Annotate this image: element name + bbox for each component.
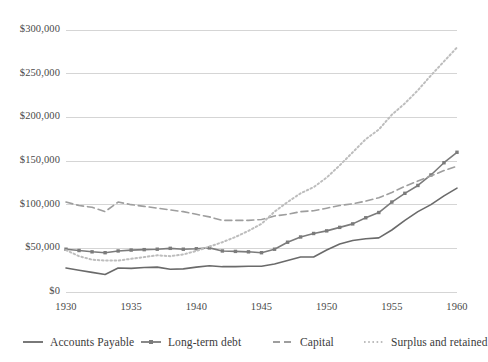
series-marker [364,216,367,219]
series-marker [403,192,406,195]
legend-swatch-icon [272,336,294,348]
series-marker [286,241,289,244]
series-marker [299,235,302,238]
y-axis-tick-label: $150,000 [0,154,60,165]
series-marker [455,151,458,154]
series-line-1 [66,152,457,252]
series-marker [338,226,341,229]
legend-swatch-icon [140,336,162,348]
x-axis-tick-label: 1930 [41,301,91,312]
series-line-2 [66,166,457,220]
legend-item-3[interactable]: Surplus and retained [363,332,488,352]
y-axis-tick-label: $300,000 [0,23,60,34]
series-marker [390,200,393,203]
series-marker [442,161,445,164]
y-axis-tick-label: $0 [0,285,60,296]
series-marker [77,249,80,252]
series-marker [103,251,106,254]
series-marker [234,250,237,253]
series-marker [325,229,328,232]
x-axis-tick-label: 1940 [171,301,221,312]
series-marker [312,232,315,235]
series-line-3 [66,47,457,260]
x-axis-tick-label: 1950 [302,301,352,312]
chart-legend: Accounts PayableLong-term debtCapitalSur… [0,330,481,356]
series-marker [169,247,172,250]
series-marker [221,249,224,252]
series-line-0 [66,188,457,274]
series-marker [90,250,93,253]
series-marker [143,248,146,251]
legend-label: Surplus and retained [391,336,488,348]
y-axis-tick-label: $250,000 [0,67,60,78]
series-marker [247,250,250,253]
legend-item-0[interactable]: Accounts Payable [22,332,134,352]
series-marker [377,211,380,214]
legend-swatch-icon [22,336,44,348]
y-axis-tick-label: $50,000 [0,241,60,252]
series-marker [416,184,419,187]
x-axis-tick-label: 1935 [106,301,156,312]
legend-swatch-icon [363,336,385,348]
series-marker [273,248,276,251]
y-axis-tick-label: $200,000 [0,110,60,121]
legend-item-2[interactable]: Capital [272,332,334,352]
series-marker [116,249,119,252]
legend-label: Capital [300,336,334,348]
series-marker [182,248,185,251]
legend-item-1[interactable]: Long-term debt [140,332,241,352]
series-marker [129,248,132,251]
x-axis-tick-label: 1945 [237,301,287,312]
legend-label: Long-term debt [168,336,241,348]
legend-label: Accounts Payable [50,336,134,348]
y-axis-tick-label: $100,000 [0,198,60,209]
series-marker [156,248,159,251]
series-marker [260,251,263,254]
x-axis-tick-label: 1955 [367,301,417,312]
x-axis-tick-label: 1960 [432,301,482,312]
series-marker [351,222,354,225]
